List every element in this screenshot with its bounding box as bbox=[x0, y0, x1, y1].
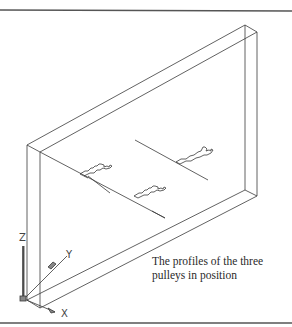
caption-line-2: pulleys in position bbox=[152, 268, 292, 282]
origin-marker-icon bbox=[20, 296, 26, 301]
y-axis-label: Y bbox=[65, 249, 73, 260]
y-axis-line bbox=[24, 256, 67, 299]
pulley-profile-1 bbox=[80, 164, 112, 178]
caption-line-1: The profiles of the three bbox=[152, 254, 292, 268]
x-axis-arrow-icon bbox=[48, 308, 55, 313]
x-axis-label: X bbox=[61, 308, 68, 319]
z-axis-label: Z bbox=[19, 232, 26, 243]
top-border bbox=[0, 10, 292, 11]
figure-caption: The profiles of the three pulleys in pos… bbox=[152, 254, 292, 282]
pulley-profile-2 bbox=[134, 186, 166, 198]
pulley-profile-3 bbox=[176, 147, 213, 164]
